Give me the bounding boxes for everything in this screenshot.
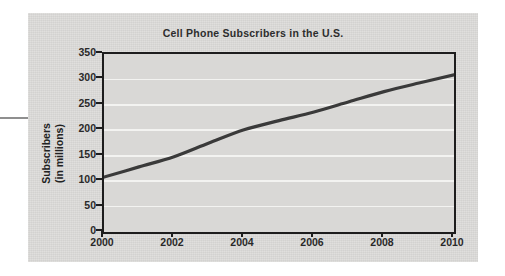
y-tick-label: 0	[56, 224, 96, 236]
plot-area	[102, 52, 456, 234]
x-tick-label: 2002	[160, 236, 183, 248]
x-tick-label: 2006	[300, 236, 323, 248]
data-series-line	[104, 54, 454, 232]
x-tick-label: 2004	[230, 236, 253, 248]
x-tick-label: 2008	[370, 236, 393, 248]
page-margin-rule	[0, 117, 29, 119]
figure-root: Cell Phone Subscribers in the U.S. Subsc…	[0, 0, 505, 276]
plot-inner	[104, 54, 454, 232]
x-tick-label: 2010	[440, 236, 463, 248]
y-tick-label: 100	[56, 173, 96, 185]
x-tick-label: 2000	[90, 236, 113, 248]
y-tick-label: 300	[56, 71, 96, 83]
y-tick-label: 150	[56, 148, 96, 160]
y-axis-title-line1: Subscribers	[40, 123, 52, 184]
chart-title: Cell Phone Subscribers in the U.S.	[28, 27, 478, 39]
y-tick-label: 200	[56, 122, 96, 134]
y-tick-label: 250	[56, 97, 96, 109]
y-tick-label: 50	[56, 199, 96, 211]
y-tick-label: 350	[56, 46, 96, 58]
